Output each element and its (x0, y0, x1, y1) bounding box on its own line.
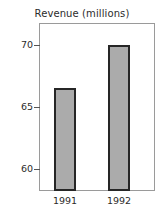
x-tick-label-1991: 1991 (43, 196, 87, 206)
y-tick-label-70: 70 (7, 40, 33, 50)
bar-1992 (108, 45, 130, 191)
bar-1991 (54, 88, 76, 191)
bar-chart-figure: Revenue (millions) 70 65 60 1991 1992 (0, 0, 164, 216)
y-tick-65 (34, 107, 40, 108)
x-tick-label-1992: 1992 (97, 196, 141, 206)
y-tick-70 (34, 45, 40, 46)
chart-title: Revenue (millions) (0, 8, 164, 19)
y-tick-label-65: 65 (7, 102, 33, 112)
y-tick-label-60: 60 (7, 164, 33, 174)
y-tick-60 (34, 169, 40, 170)
plot-area (39, 23, 155, 191)
